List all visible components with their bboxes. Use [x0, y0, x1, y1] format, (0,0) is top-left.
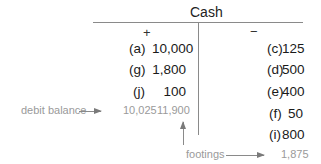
debit-entry: (g)	[129, 62, 146, 77]
debit-sign: +	[143, 25, 151, 40]
credit-amount: 50	[282, 106, 303, 121]
entry-label: (g)	[129, 62, 146, 77]
debit-entry: (j)	[133, 84, 145, 99]
debit-amount: 1,800	[149, 62, 186, 77]
debit-entry: (a)	[129, 41, 146, 56]
right-arrow-icon	[226, 155, 264, 156]
up-arrow-icon	[183, 122, 184, 145]
credit-amount: 800	[282, 127, 303, 142]
debit-amount: 10,000	[152, 41, 193, 56]
footings-label: footings	[186, 148, 225, 160]
account-title: Cash	[190, 4, 223, 20]
t-account-vertical-rule	[198, 22, 199, 135]
credit-entry-label: (c)	[267, 41, 283, 56]
credit-amount: 500	[282, 62, 303, 77]
debit-balance-value: 10,025	[123, 104, 157, 116]
debit-footing: 11,900	[157, 104, 190, 116]
entry-label: (j)	[133, 84, 145, 99]
debit-balance-label: debit balance	[21, 104, 86, 116]
credit-entry-label: (i)	[269, 127, 281, 142]
debit-amount: 100	[149, 84, 186, 99]
entry-label: (a)	[129, 41, 146, 56]
credit-amount: 125	[282, 41, 303, 56]
credit-entry-label: (f)	[269, 106, 282, 121]
credit-footing: 1,875	[281, 148, 309, 160]
credit-sign: −	[250, 24, 258, 39]
credit-amount: 400	[282, 84, 303, 99]
right-arrow-icon	[79, 111, 101, 112]
